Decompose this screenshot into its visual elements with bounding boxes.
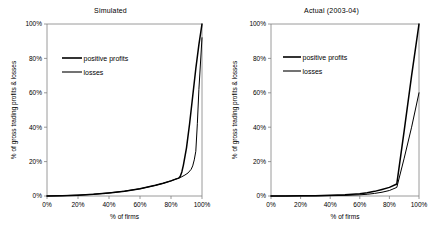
legend-label-positive_profits: positive profits bbox=[303, 54, 348, 62]
series-line-positive-profits bbox=[47, 24, 202, 196]
x-tick-label: 100% bbox=[194, 201, 211, 208]
y-tick-label: 80% bbox=[29, 55, 42, 62]
x-tick-label: 0% bbox=[42, 201, 52, 208]
plot-svg-simulated: 0%20%40%60%80%100%0%20%40%60%80%100%% of… bbox=[0, 0, 221, 235]
y-tick-label: 20% bbox=[253, 158, 266, 165]
legend-label-losses: losses bbox=[84, 69, 104, 76]
legend-label-positive_profits: positive profits bbox=[84, 55, 129, 63]
y-tick-label: 20% bbox=[29, 158, 42, 165]
x-tick-label: 60% bbox=[133, 201, 146, 208]
y-tick-label: 40% bbox=[253, 124, 266, 131]
x-axis-title: % of firms bbox=[331, 213, 361, 220]
y-axis-title: % of gross trading profits & losses bbox=[10, 60, 18, 159]
y-axis-title: % of gross trading profits & losses bbox=[231, 60, 239, 159]
x-tick-label: 40% bbox=[324, 201, 337, 208]
y-tick-label: 0% bbox=[257, 192, 267, 199]
x-axis-title: % of firms bbox=[110, 213, 140, 220]
y-tick-label: 100% bbox=[249, 20, 266, 27]
y-tick-label: 60% bbox=[29, 89, 42, 96]
y-tick-label: 80% bbox=[253, 55, 266, 62]
x-tick-label: 40% bbox=[102, 201, 115, 208]
x-tick-label: 20% bbox=[294, 201, 307, 208]
x-tick-label: 0% bbox=[266, 201, 276, 208]
chart-panel-actual: Actual (2003-04) 0%20%40%60%80%100%0%20%… bbox=[221, 0, 442, 235]
x-tick-label: 80% bbox=[164, 201, 177, 208]
two-panel-line-chart-figure: Simulated 0%20%40%60%80%100%0%20%40%60%8… bbox=[0, 0, 443, 235]
x-tick-label: 100% bbox=[411, 201, 428, 208]
plot-svg-actual: 0%20%40%60%80%100%0%20%40%60%80%100%% of… bbox=[221, 0, 442, 235]
y-tick-label: 0% bbox=[33, 192, 43, 199]
x-tick-label: 60% bbox=[353, 201, 366, 208]
y-tick-label: 40% bbox=[29, 124, 42, 131]
y-tick-label: 60% bbox=[253, 89, 266, 96]
legend-label-losses: losses bbox=[303, 68, 323, 75]
plot-area-actual: 0%20%40%60%80%100%0%20%40%60%80%100%% of… bbox=[231, 20, 428, 220]
x-tick-label: 20% bbox=[71, 201, 84, 208]
x-tick-label: 80% bbox=[383, 201, 396, 208]
plot-area-simulated: 0%20%40%60%80%100%0%20%40%60%80%100%% of… bbox=[10, 20, 211, 220]
series-line-positive-profits bbox=[271, 24, 419, 196]
chart-panel-simulated: Simulated 0%20%40%60%80%100%0%20%40%60%8… bbox=[0, 0, 221, 235]
y-tick-label: 100% bbox=[25, 20, 42, 27]
